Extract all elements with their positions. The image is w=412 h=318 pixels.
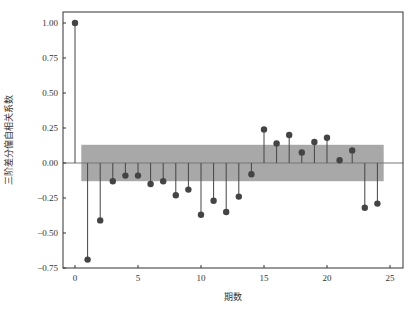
y-tick-label: 0.00 <box>42 158 58 168</box>
data-point <box>336 157 342 163</box>
x-tick-label: 5 <box>136 273 141 283</box>
stem-marker <box>248 171 254 177</box>
y-tick-label: −0.50 <box>37 228 58 238</box>
y-tick-label: 0.50 <box>42 88 58 98</box>
stem-marker <box>362 205 368 211</box>
data-point <box>72 20 78 163</box>
stem-marker <box>110 178 116 184</box>
x-tick-label: 25 <box>386 273 396 283</box>
stem-marker <box>198 212 204 218</box>
stem-marker <box>84 256 90 262</box>
stem-marker <box>72 20 78 26</box>
stem-marker <box>374 200 380 206</box>
stem-marker <box>311 139 317 145</box>
stem-marker <box>324 135 330 141</box>
axes-frame <box>63 12 403 268</box>
stem-marker <box>173 192 179 198</box>
y-tick-label: 0.75 <box>42 53 58 63</box>
x-axis-label: 期数 <box>224 291 242 302</box>
x-tick-label: 0 <box>73 273 78 283</box>
stem-marker <box>273 140 279 146</box>
stem-marker <box>160 178 166 184</box>
stem-marker <box>210 198 216 204</box>
stem-series <box>72 20 381 263</box>
stem-marker <box>286 132 292 138</box>
y-axis-ticks: 1.000.750.500.250.00−0.25−0.50−0.75 <box>37 18 66 273</box>
y-tick-label: 0.25 <box>42 123 58 133</box>
y-tick-label: 1.00 <box>42 18 58 28</box>
stem-marker <box>185 186 191 192</box>
y-tick-label: −0.75 <box>37 263 58 273</box>
x-tick-label: 10 <box>197 273 207 283</box>
y-axis-label: 三阶差分偏自相关系数 <box>3 95 14 185</box>
pacf-chart: 0510152025 1.000.750.500.250.00−0.25−0.5… <box>0 0 412 318</box>
stem-marker <box>97 217 103 223</box>
stem-marker <box>236 193 242 199</box>
stem-marker <box>299 149 305 155</box>
stem-marker <box>147 181 153 187</box>
y-tick-label: −0.25 <box>37 193 58 203</box>
stem-marker <box>122 172 128 178</box>
stem-marker <box>135 172 141 178</box>
stem-marker <box>261 126 267 132</box>
stem-marker <box>336 157 342 163</box>
x-tick-label: 15 <box>260 273 270 283</box>
stem-marker <box>223 209 229 215</box>
x-tick-label: 20 <box>323 273 333 283</box>
stem-marker <box>349 147 355 153</box>
